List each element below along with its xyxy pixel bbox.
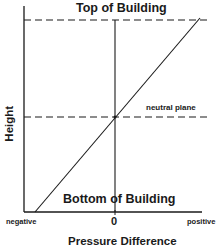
- neutral-plane-label: neutral plane: [146, 104, 196, 112]
- x-tick-positive: positive: [187, 218, 215, 226]
- bottom-of-building-label: Bottom of Building: [63, 193, 175, 206]
- neutral-plane-intersection-dot: [114, 116, 117, 119]
- x-tick-zero: 0: [111, 216, 117, 227]
- x-tick-negative: negative: [6, 218, 36, 226]
- x-axis-label: Pressure Difference: [68, 236, 177, 248]
- top-of-building-label: Top of Building: [76, 2, 167, 15]
- pressure-gradient-line: [35, 18, 200, 212]
- y-axis-label: Height: [4, 106, 16, 142]
